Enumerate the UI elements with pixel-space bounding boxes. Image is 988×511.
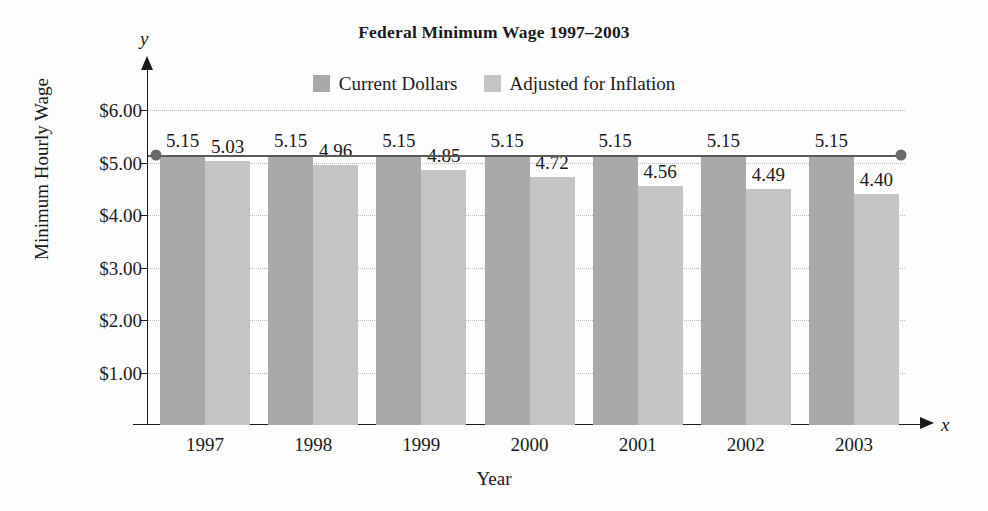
constant-level-line (148, 155, 905, 157)
bar-value-label: 4.56 (634, 162, 686, 181)
bar-adjusted-inflation (313, 165, 358, 425)
trend-line-end-marker-icon (896, 149, 907, 160)
bar-current-dollars (701, 155, 746, 425)
bar-value-label: 4.96 (310, 141, 362, 160)
x-axis-tick-label: 1999 (402, 434, 440, 456)
x-axis-tick-label: 2002 (727, 434, 765, 456)
chart-figure: Federal Minimum Wage 1997–2003 Current D… (0, 0, 988, 511)
bar-adjusted-inflation (421, 170, 466, 425)
x-axis-tick-label: 2001 (619, 434, 657, 456)
bar-current-dollars (376, 155, 421, 425)
gridline (148, 110, 905, 111)
bar-current-dollars (485, 155, 530, 425)
bar-value-label: 4.49 (742, 165, 794, 184)
x-axis-tick-label: 2003 (835, 434, 873, 456)
x-axis-tick-label: 1997 (186, 434, 224, 456)
x-axis-tick-label: 2000 (511, 434, 549, 456)
bar-current-dollars (593, 155, 638, 425)
bar-current-dollars (160, 155, 205, 425)
bar-value-label: 4.40 (850, 170, 902, 189)
bar-value-label: 5.15 (805, 131, 857, 150)
bar-adjusted-inflation (638, 186, 683, 425)
plot-area: 5.155.035.154.965.154.855.154.725.154.56… (148, 110, 905, 425)
bar-value-label: 5.15 (697, 131, 749, 150)
bar-adjusted-inflation (530, 177, 575, 425)
bar-value-label: 5.03 (202, 137, 254, 156)
x-axis-title: Year (0, 468, 988, 490)
bar-adjusted-inflation (854, 194, 899, 425)
bar-adjusted-inflation (205, 161, 250, 425)
bar-current-dollars (268, 155, 313, 425)
trend-line-start-marker-icon (151, 149, 162, 160)
bar-current-dollars (809, 155, 854, 425)
bar-value-label: 5.15 (589, 131, 641, 150)
bar-adjusted-inflation (746, 189, 791, 425)
bar-value-label: 5.15 (481, 131, 533, 150)
x-axis-tick-label: 1998 (294, 434, 332, 456)
